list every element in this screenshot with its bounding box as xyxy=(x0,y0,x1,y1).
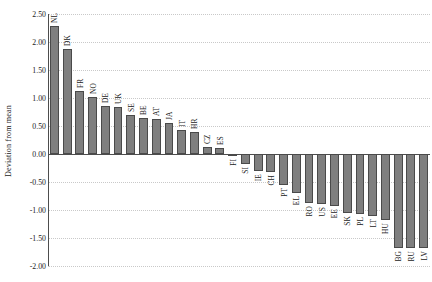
bar[interactable] xyxy=(190,132,199,154)
bar[interactable] xyxy=(330,154,339,206)
bar-category-label: BG xyxy=(394,251,403,261)
bar-slot: LT xyxy=(366,14,379,266)
bar-slot: NO xyxy=(86,14,99,266)
y-axis-tick-label: 0.50 xyxy=(16,122,46,131)
bar[interactable] xyxy=(139,118,148,154)
plot-area: NLDKFRNODEUKSEBEATJAITHRCZESFISIIECHPTEL… xyxy=(48,14,430,266)
bar-category-label: NL xyxy=(50,13,59,23)
bar-slot: HU xyxy=(379,14,392,266)
bar-category-label: PL xyxy=(355,217,364,226)
bar[interactable] xyxy=(126,115,135,154)
bar-slot: RO xyxy=(303,14,316,266)
y-axis-tick-label: 1.00 xyxy=(16,94,46,103)
bar-category-label: RO xyxy=(305,206,314,216)
bar-category-label: RU xyxy=(406,251,415,261)
bar-slot: CH xyxy=(264,14,277,266)
bar[interactable] xyxy=(101,106,110,154)
bar[interactable] xyxy=(368,154,377,216)
y-axis-tick-label: -1.00 xyxy=(16,206,46,215)
bar-category-label: EE xyxy=(330,209,339,218)
bar-category-label: IT xyxy=(177,120,186,127)
bar[interactable] xyxy=(305,154,314,203)
bar-category-label: SI xyxy=(241,167,250,174)
bar-category-label: SK xyxy=(343,216,352,226)
bar-slot: RU xyxy=(405,14,418,266)
bar-slot: HR xyxy=(188,14,201,266)
bar[interactable] xyxy=(203,147,212,154)
bar-category-label: NO xyxy=(88,83,97,94)
y-axis-tick-label: 2.50 xyxy=(16,10,46,19)
bar[interactable] xyxy=(75,91,84,154)
bar[interactable] xyxy=(419,154,428,248)
bar-slot: PL xyxy=(354,14,367,266)
y-axis-title: Deviation from mean xyxy=(0,0,16,282)
bar-category-label: LV xyxy=(419,251,428,260)
y-axis-tick-label: 1.50 xyxy=(16,66,46,75)
bar[interactable] xyxy=(254,154,263,171)
bar-category-label: PT xyxy=(279,188,288,197)
bar-category-label: EL xyxy=(292,196,301,205)
bar-category-label: SE xyxy=(126,103,135,112)
bar-category-label: JA xyxy=(164,112,173,120)
bar-slot: EE xyxy=(328,14,341,266)
bar-category-label: FR xyxy=(75,79,84,88)
bar-slot: NL xyxy=(48,14,61,266)
bar[interactable] xyxy=(177,130,186,154)
bar-category-label: BE xyxy=(139,105,148,115)
bar[interactable] xyxy=(356,154,365,214)
bar-slot: SE xyxy=(124,14,137,266)
bar-slot: AT xyxy=(150,14,163,266)
bar[interactable] xyxy=(266,154,275,172)
gridline xyxy=(48,266,430,267)
bar-category-label: DE xyxy=(101,93,110,103)
bar-slot: JA xyxy=(163,14,176,266)
bar[interactable] xyxy=(165,123,174,154)
bar-category-label: CH xyxy=(266,175,275,185)
bar[interactable] xyxy=(152,119,161,154)
bar-category-label: HU xyxy=(381,223,390,234)
bar-category-label: AT xyxy=(152,106,161,115)
bar[interactable] xyxy=(279,154,288,185)
bar-category-label: LT xyxy=(368,219,377,228)
bar[interactable] xyxy=(406,154,415,248)
bar-slot: EL xyxy=(290,14,303,266)
bar-slot: UK xyxy=(112,14,125,266)
bar[interactable] xyxy=(215,148,224,154)
bar[interactable] xyxy=(292,154,301,193)
y-axis-tick-label: -0.50 xyxy=(16,178,46,187)
bar-slot: US xyxy=(315,14,328,266)
y-axis-tick-label: -1.50 xyxy=(16,234,46,243)
bar-category-label: IE xyxy=(254,174,263,181)
bar-slot: DE xyxy=(99,14,112,266)
bar-slot: SK xyxy=(341,14,354,266)
bar-category-label: ES xyxy=(215,137,224,146)
bar-slot: ES xyxy=(214,14,227,266)
bar-slot: BE xyxy=(137,14,150,266)
bar-category-label: CZ xyxy=(203,135,212,145)
bar-slot: SI xyxy=(239,14,252,266)
bar-slot: PT xyxy=(277,14,290,266)
bar-category-label: FI xyxy=(228,159,237,166)
chart-figure: Deviation from mean 2.502.001.501.000.50… xyxy=(0,0,432,282)
bar[interactable] xyxy=(317,154,326,204)
bar[interactable] xyxy=(114,107,123,154)
bar[interactable] xyxy=(88,97,97,154)
bar-slot: BG xyxy=(392,14,405,266)
bar[interactable] xyxy=(381,154,390,220)
bar[interactable] xyxy=(50,26,59,154)
bar[interactable] xyxy=(241,154,250,164)
bar[interactable] xyxy=(63,49,72,154)
y-axis-tick-label: 0.00 xyxy=(16,150,46,159)
bar[interactable] xyxy=(394,154,403,248)
y-axis-tick-label: -2.00 xyxy=(16,262,46,271)
bar[interactable] xyxy=(228,154,237,156)
bar-category-label: HR xyxy=(190,118,199,128)
bar-slot: FI xyxy=(226,14,239,266)
bar-category-label: DK xyxy=(63,35,72,46)
y-axis-tick-labels: 2.502.001.501.000.500.00-0.50-1.00-1.50-… xyxy=(16,0,46,282)
bar[interactable] xyxy=(343,154,352,213)
bar-slot: IT xyxy=(175,14,188,266)
bar-series: NLDKFRNODEUKSEBEATJAITHRCZESFISIIECHPTEL… xyxy=(48,14,430,266)
bar-slot: FR xyxy=(73,14,86,266)
bar-slot: DK xyxy=(61,14,74,266)
